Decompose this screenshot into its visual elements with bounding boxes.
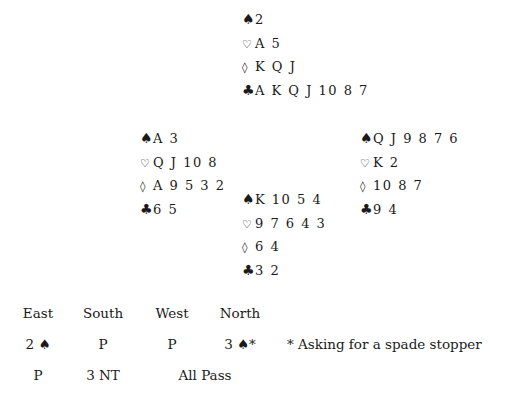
auction-header-west: West [155,305,188,321]
auction-bid: All Pass [178,367,231,383]
auction-note: * Asking for a spade stopper [287,336,482,352]
diamond-icon: ◊ [140,175,153,199]
club-icon: ♣ [242,259,255,283]
south-hand: ♠K 10 5 4 ♡9 7 6 4 3 ◊6 4 ♣3 2 [242,188,326,282]
west-diamonds: ◊A 9 5 3 2 [140,174,226,198]
auction-bid: 3 NT [86,367,120,383]
west-hand: ♠A 3 ♡Q J 10 8 ◊A 9 5 3 2 ♣6 5 [140,127,226,221]
auction-bid: 2 ♠ [26,336,51,352]
east-hearts: ♡K 2 [360,151,459,175]
west-hearts: ♡Q J 10 8 [140,151,226,175]
south-hearts: ♡9 7 6 4 3 [242,212,326,236]
west-spades: ♠A 3 [140,127,226,151]
north-hand: ♠2 ♡A 5 ◊K Q J ♣A K Q J 10 8 7 [242,8,369,102]
south-clubs: ♣3 2 [242,259,326,283]
club-icon: ♣ [360,198,373,222]
diamond-icon: ◊ [242,236,255,260]
heart-icon: ♡ [360,152,373,176]
east-clubs: ♣9 4 [360,198,459,222]
east-spades: ♠Q J 9 8 7 6 [360,127,459,151]
north-spades: ♠2 [242,8,369,32]
south-diamonds: ◊6 4 [242,235,326,259]
diamond-icon: ◊ [360,175,373,199]
spade-icon: ♠ [360,127,373,151]
auction-bid: P [33,367,42,383]
auction-bid: P [167,336,176,352]
auction-header-south: South [83,305,123,321]
spade-icon: ♠ [242,8,255,32]
north-hearts: ♡A 5 [242,32,369,56]
east-hand: ♠Q J 9 8 7 6 ♡K 2 ◊10 8 7 ♣9 4 [360,127,459,221]
heart-icon: ♡ [140,152,153,176]
heart-icon: ♡ [242,213,255,237]
auction-bid: 3 ♠* [224,336,256,352]
west-clubs: ♣6 5 [140,198,226,222]
club-icon: ♣ [242,79,255,103]
north-diamonds: ◊K Q J [242,55,369,79]
auction-header-east: East [23,305,53,321]
east-diamonds: ◊10 8 7 [360,174,459,198]
diamond-icon: ◊ [242,56,255,80]
north-clubs: ♣A K Q J 10 8 7 [242,79,369,103]
spade-icon: ♠ [242,188,255,212]
south-spades: ♠K 10 5 4 [242,188,326,212]
auction-bid: P [98,336,107,352]
club-icon: ♣ [140,198,153,222]
heart-icon: ♡ [242,33,255,57]
spade-icon: ♠ [140,127,153,151]
auction-header-north: North [220,305,261,321]
